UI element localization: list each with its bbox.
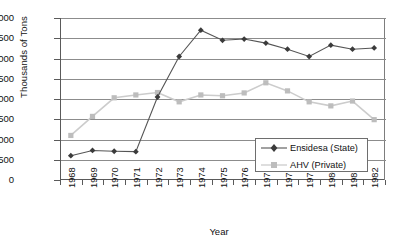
y-tick-label: 2,500 <box>0 74 14 84</box>
y-tick-mark <box>54 59 60 60</box>
x-tick-mark <box>60 180 61 185</box>
y-tick-mark <box>54 140 60 141</box>
legend-label-ahv: AHV (Private) <box>290 157 346 173</box>
x-tick-mark <box>342 180 343 185</box>
gridline <box>61 18 386 19</box>
chart-container: Thousands of Tons 4,0003,5003,0002,5002,… <box>0 0 408 244</box>
chart-legend: Ensidesa (State) AHV (Private) <box>255 138 368 172</box>
x-tick-label: 1981 <box>348 175 361 188</box>
y-tick-label: 2,000 <box>0 94 14 104</box>
x-tick-label: 1978 <box>283 175 296 188</box>
x-tick-mark <box>320 180 321 185</box>
x-tick-label: 1975 <box>218 175 231 188</box>
y-tick-mark <box>54 119 60 120</box>
x-tick-mark <box>363 180 364 185</box>
gridline <box>61 79 386 80</box>
x-tick-label: 1979 <box>304 175 317 188</box>
x-tick-mark <box>82 180 83 185</box>
x-tick-mark <box>147 180 148 185</box>
y-tick-mark <box>54 79 60 80</box>
x-tick-mark <box>168 180 169 185</box>
x-tick-mark <box>212 180 213 185</box>
x-tick-mark <box>233 180 234 185</box>
x-tick-label: 1968 <box>66 175 79 188</box>
x-tick-label: 1971 <box>131 175 144 188</box>
x-tick-label: 1973 <box>174 175 187 188</box>
x-tick-label: 1982 <box>369 175 382 188</box>
legend-item-ahv: AHV (Private) <box>256 157 367 173</box>
x-tick-mark <box>255 180 256 185</box>
legend-item-ensidesa: Ensidesa (State) <box>256 140 367 156</box>
gridline <box>61 38 386 39</box>
x-tick-mark <box>125 180 126 185</box>
y-tick-label: 4,000 <box>0 13 14 23</box>
y-axis-title: Thousands of Tons <box>18 0 32 122</box>
legend-marker-square-icon <box>260 157 288 173</box>
legend-label-ensidesa: Ensidesa (State) <box>290 140 358 156</box>
gridline <box>61 59 386 60</box>
y-tick-label: 1,000 <box>0 135 14 145</box>
x-tick-label: 1972 <box>153 175 166 188</box>
y-tick-label: 500 <box>0 155 14 165</box>
y-tick-mark <box>54 99 60 100</box>
x-tick-mark <box>190 180 191 185</box>
x-tick-label: 1974 <box>196 175 209 188</box>
y-tick-label: 0 <box>0 175 14 185</box>
x-tick-mark <box>385 180 386 185</box>
y-tick-mark <box>54 160 60 161</box>
x-tick-mark <box>277 180 278 185</box>
x-tick-mark <box>298 180 299 185</box>
gridline <box>61 119 386 120</box>
x-tick-mark <box>103 180 104 185</box>
x-tick-label: 1977 <box>261 175 274 188</box>
x-tick-label: 1976 <box>239 175 252 188</box>
y-tick-label: 3,000 <box>0 54 14 64</box>
y-tick-label: 1,500 <box>0 114 14 124</box>
x-tick-label: 1970 <box>109 175 122 188</box>
y-tick-label: 3,500 <box>0 33 14 43</box>
y-tick-mark <box>54 38 60 39</box>
x-axis-title: Year <box>0 226 408 237</box>
legend-marker-diamond-icon <box>260 140 288 156</box>
x-axis-title-label: Year <box>179 226 228 237</box>
x-tick-label: 1980 <box>326 175 339 188</box>
gridline <box>61 99 386 100</box>
x-tick-label: 1969 <box>88 175 101 188</box>
y-tick-mark <box>54 18 60 19</box>
